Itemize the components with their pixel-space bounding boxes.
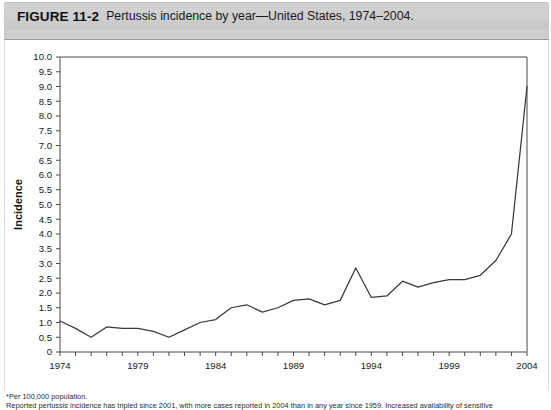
y-axis-title: Incidence (12, 179, 24, 230)
y-axis-tick-label: 2.5 (39, 273, 52, 284)
y-axis-tick-label: 1.5 (39, 302, 52, 313)
y-axis-tick-label: 0 (47, 346, 52, 357)
figure-caption: Pertussis incidence by year—United State… (106, 9, 414, 23)
x-axis-tick-label: 1989 (283, 360, 304, 371)
y-axis-tick-label: 9.0 (39, 81, 52, 92)
figure-number-label: FIGURE 11-2 (17, 9, 99, 24)
y-axis-tick-label: 4.5 (39, 214, 52, 225)
footnote-line-1: *Per 100,000 population. (6, 392, 551, 401)
figure-title-underband (4, 29, 549, 40)
x-axis-tick-label: 1999 (438, 360, 459, 371)
figure-title-band: FIGURE 11-2 Pertussis incidence by year—… (4, 2, 549, 29)
line-chart: 00.51.01.52.02.53.03.54.04.55.05.56.06.5… (0, 40, 551, 375)
x-axis-tick-label: 1994 (361, 360, 383, 371)
x-axis-tick-label: 1979 (127, 360, 148, 371)
y-axis-tick-label: 7.5 (39, 125, 52, 136)
y-axis-tick-label: 10.0 (33, 51, 52, 62)
figure-footnotes: *Per 100,000 population. Reported pertus… (6, 392, 551, 410)
y-axis-tick-label: 3.5 (39, 243, 52, 254)
y-axis-tick-label: 5.0 (39, 199, 52, 210)
y-axis-tick-label: 9.5 (39, 66, 52, 77)
y-axis-tick-label: 1.0 (39, 317, 52, 328)
x-axis-tick-label: 1984 (205, 360, 227, 371)
y-axis-tick-label: 3.0 (39, 258, 52, 269)
footnote-line-2: Reported pertussis incidence has tripled… (6, 401, 551, 410)
y-axis-tick-label: 0.5 (39, 332, 52, 343)
y-axis-tick-label: 4.0 (39, 228, 52, 239)
y-axis-tick-label: 5.5 (39, 184, 52, 195)
y-axis-tick-label: 6.5 (39, 155, 52, 166)
x-axis-tick-label: 1974 (49, 360, 71, 371)
y-axis-tick-label: 8.5 (39, 96, 52, 107)
y-axis-tick-label: 8.0 (39, 110, 52, 121)
x-axis-tick-label: 2004 (516, 360, 538, 371)
plot-frame (60, 57, 527, 352)
data-series-line-0 (60, 87, 527, 338)
y-axis-tick-label: 7.0 (39, 140, 52, 151)
y-axis-tick-label: 2.0 (39, 287, 52, 298)
y-axis-tick-label: 6.0 (39, 169, 52, 180)
